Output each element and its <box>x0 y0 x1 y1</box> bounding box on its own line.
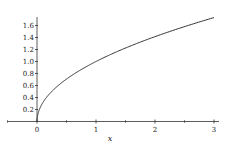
y-tick-label: 0.4 <box>23 94 35 102</box>
y-axis: 0.20.40.60.81.01.21.41.6 <box>23 17 38 122</box>
x-tick-label: 2 <box>153 126 157 134</box>
y-tick-label: 1.2 <box>23 46 34 54</box>
y-tick-label: 0.8 <box>23 70 34 78</box>
y-tick-label: 1.6 <box>23 22 35 30</box>
x-axis-label: x <box>108 134 113 143</box>
y-tick-label: 0.6 <box>23 82 35 90</box>
x-axis: 0123 <box>8 120 220 134</box>
chart: 0123 0.20.40.60.81.01.21.41.6 x <box>0 0 225 155</box>
curve-sqrt-x <box>37 18 214 122</box>
x-tick-label: 1 <box>94 126 98 134</box>
y-tick-label: 0.2 <box>23 106 34 114</box>
y-tick-label: 1.0 <box>23 58 34 66</box>
y-tick-label: 1.4 <box>23 34 35 42</box>
x-tick-label: 0 <box>35 126 39 134</box>
x-tick-label: 3 <box>212 126 216 134</box>
